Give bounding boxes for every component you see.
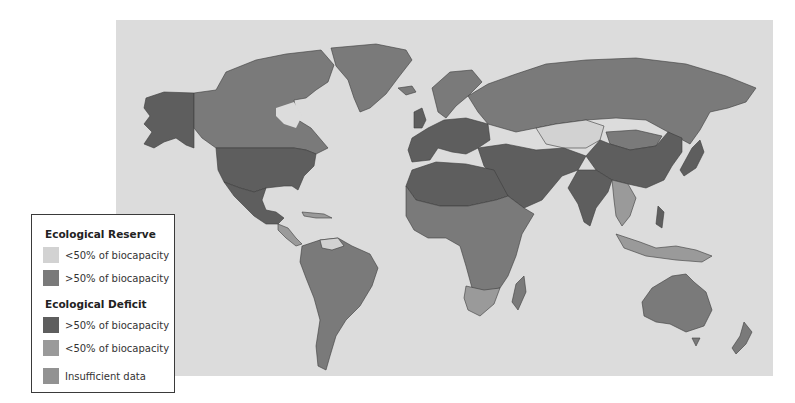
world-map xyxy=(116,20,773,376)
legend-item-deficit-lt50: <50% of biocapacity xyxy=(43,340,169,356)
region-philippines xyxy=(656,206,664,228)
region-japan xyxy=(680,140,704,176)
legend-swatch xyxy=(43,368,59,384)
region-alaska xyxy=(144,92,194,148)
region-caribbean xyxy=(302,212,332,218)
legend-swatch xyxy=(43,317,59,333)
region-south-america xyxy=(300,238,378,370)
region-central-america xyxy=(278,224,302,246)
legend-item-insufficient-data: Insufficient data xyxy=(43,368,146,384)
region-india xyxy=(568,170,612,226)
legend-heading-reserve: Ecological Reserve xyxy=(45,228,156,240)
region-russia xyxy=(468,58,756,144)
region-iceland xyxy=(398,86,416,95)
region-southern-africa xyxy=(464,286,500,316)
region-canada xyxy=(194,50,334,154)
legend-swatch xyxy=(43,270,59,286)
legend-item-deficit-gt50: >50% of biocapacity xyxy=(43,317,169,333)
region-greenland xyxy=(331,44,412,112)
region-southeast-asia xyxy=(612,180,636,226)
legend-item-reserve-lt50: <50% of biocapacity xyxy=(43,247,169,263)
map-legend: Ecological Reserve <50% of biocapacity >… xyxy=(31,214,175,393)
legend-swatch xyxy=(43,247,59,263)
region-uk xyxy=(414,108,426,128)
world-map-svg xyxy=(116,20,773,376)
legend-item-reserve-gt50: >50% of biocapacity xyxy=(43,270,169,286)
region-new-zealand xyxy=(732,322,752,354)
legend-swatch xyxy=(43,340,59,356)
legend-label: >50% of biocapacity xyxy=(65,320,169,331)
legend-label: <50% of biocapacity xyxy=(65,250,169,261)
legend-label: <50% of biocapacity xyxy=(65,343,169,354)
legend-label: >50% of biocapacity xyxy=(65,273,169,284)
legend-label: Insufficient data xyxy=(65,371,146,382)
region-madagascar xyxy=(512,276,526,310)
region-australia xyxy=(642,274,712,332)
region-indonesia xyxy=(616,234,712,262)
region-tasmania xyxy=(692,338,700,346)
legend-heading-deficit: Ecological Deficit xyxy=(45,298,147,310)
